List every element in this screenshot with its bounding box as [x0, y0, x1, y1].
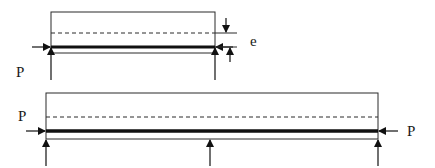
continuous-beam: P P	[18, 93, 415, 166]
simply-supported-beam: P e	[16, 12, 257, 80]
force-label: P	[16, 64, 24, 80]
force-label-right: P	[407, 123, 415, 139]
diagram-canvas: P e P P	[0, 0, 435, 168]
eccentricity-label: e	[250, 33, 257, 49]
force-label-left: P	[18, 108, 26, 124]
